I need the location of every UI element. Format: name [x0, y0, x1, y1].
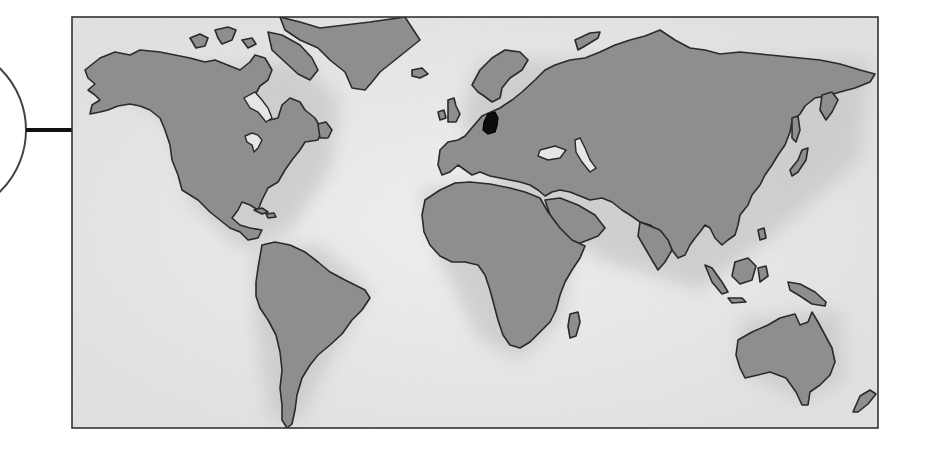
map-panel — [72, 17, 878, 428]
island-hispaniola — [266, 213, 276, 218]
island-philippines — [758, 228, 766, 240]
world-map-figure — [0, 0, 930, 462]
island-borneo — [732, 258, 756, 284]
island-java — [728, 298, 746, 303]
callout-circle — [0, 44, 26, 216]
island-ireland — [438, 110, 446, 120]
